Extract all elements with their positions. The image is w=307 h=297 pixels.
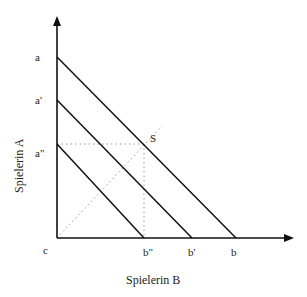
tick-label-b-double-prime: b" bbox=[143, 246, 153, 258]
origin-label: c bbox=[43, 244, 48, 256]
tick-label-a-prime: a' bbox=[35, 94, 42, 106]
tick-label-a-double-prime: a" bbox=[35, 147, 44, 159]
line-a-b bbox=[57, 57, 236, 238]
diagram-canvas: a a' a" c b" b' b S Spielerin A Spieleri… bbox=[0, 0, 307, 297]
point-s-label: S bbox=[150, 132, 156, 144]
tick-label-b: b bbox=[231, 246, 237, 258]
x-axis-title: Spielerin B bbox=[126, 273, 180, 287]
dotted-guides bbox=[57, 126, 162, 238]
dotted-diagonal bbox=[57, 126, 162, 238]
budget-lines bbox=[57, 57, 236, 238]
y-axis-title: Spielerin A bbox=[12, 138, 26, 193]
tick-label-a: a bbox=[35, 51, 40, 63]
tick-label-b-prime: b' bbox=[188, 246, 196, 258]
